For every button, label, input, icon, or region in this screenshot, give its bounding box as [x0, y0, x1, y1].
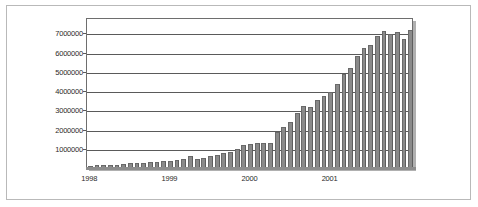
bar	[308, 107, 313, 167]
bar	[368, 45, 373, 167]
plot-area	[86, 18, 413, 168]
bar	[388, 34, 393, 167]
y-axis-tick-label: 3000000	[55, 106, 83, 115]
bar	[281, 127, 286, 167]
bar	[335, 84, 340, 167]
y-axis-tick-label: 7000000	[55, 29, 83, 38]
bar	[288, 122, 293, 167]
bar	[201, 158, 206, 167]
bar	[181, 159, 186, 167]
y-axis-tick-label: 6000000	[55, 48, 83, 57]
bar	[348, 68, 353, 167]
x-axis-tick-label: 1999	[161, 174, 177, 183]
x-axis-baseline	[86, 167, 416, 170]
x-axis-tick-label: 2001	[322, 174, 338, 183]
bar	[175, 160, 180, 167]
bar	[402, 39, 407, 167]
bar	[295, 113, 300, 167]
bar	[355, 56, 360, 167]
y-axis-tick-label: 4000000	[55, 87, 83, 96]
y-axis-tick-label: 5000000	[55, 67, 83, 76]
bar	[261, 143, 266, 167]
bar	[228, 152, 233, 167]
bar	[195, 159, 200, 167]
bar	[362, 48, 367, 167]
x-axis-tick-label: 2000	[242, 174, 258, 183]
bar	[235, 149, 240, 167]
y-axis-tick-label: 2000000	[55, 125, 83, 134]
bar	[375, 36, 380, 167]
bar	[408, 30, 413, 168]
bar	[342, 74, 347, 167]
bar	[241, 145, 246, 167]
y-axis-tick-label: 1000000	[55, 144, 83, 153]
bar	[315, 100, 320, 167]
y-axis-labels: 1000000200000030000004000000500000060000…	[0, 0, 83, 207]
x-axis-tick-label: 1998	[81, 174, 97, 183]
bar	[208, 156, 213, 167]
bar	[215, 155, 220, 167]
chart-figure: 1000000200000030000004000000500000060000…	[0, 0, 478, 207]
bar-series	[87, 19, 412, 167]
bar	[188, 156, 193, 167]
bar	[268, 143, 273, 167]
bar	[255, 143, 260, 167]
bar	[221, 153, 226, 167]
bar	[382, 31, 387, 167]
bar	[301, 106, 306, 167]
bar	[248, 144, 253, 167]
bar	[328, 92, 333, 167]
bar	[395, 32, 400, 167]
bar	[275, 132, 280, 167]
bar	[322, 96, 327, 167]
